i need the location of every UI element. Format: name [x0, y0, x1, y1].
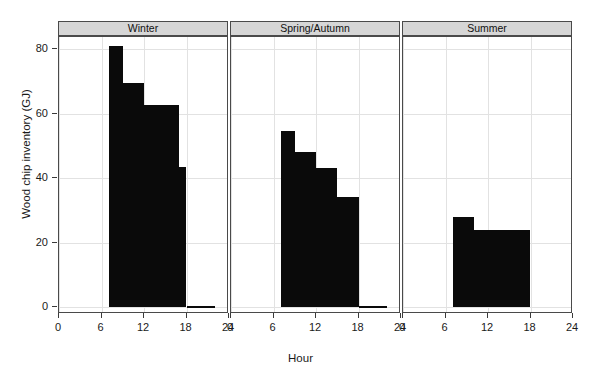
gridline-vertical [59, 37, 60, 312]
panel-spring-autumn: Spring/Autumn [230, 21, 400, 313]
x-tick-mark [445, 313, 446, 318]
y-tick-label: 60 [14, 108, 48, 119]
gridline-horizontal [403, 178, 571, 179]
gridline-vertical [102, 37, 103, 312]
x-axis-title: Hour [0, 352, 601, 364]
x-tick-mark [230, 313, 231, 318]
gridline-vertical [187, 37, 188, 312]
gridline-horizontal [231, 114, 399, 115]
gridline-vertical [359, 37, 360, 312]
gridline-vertical [446, 37, 447, 312]
y-tick-mark [52, 113, 57, 114]
panel-summer: Summer [402, 21, 572, 313]
lattice-chart: Wood chip inventory (GJ) Hour 020406080 … [0, 0, 601, 375]
x-tick-label: 12 [131, 322, 155, 333]
x-tick-mark [101, 313, 102, 318]
gridline-vertical [274, 37, 275, 312]
x-tick-mark [58, 313, 59, 318]
x-tick-label: 6 [433, 322, 457, 333]
panel-strip-label-summer: Summer [402, 21, 572, 36]
x-tick-label: 0 [218, 322, 242, 333]
y-tick-mark [52, 242, 57, 243]
gridline-horizontal [403, 307, 571, 308]
bar [337, 197, 358, 307]
y-tick-label: 40 [14, 172, 48, 183]
x-tick-mark [143, 313, 144, 318]
x-tick-mark [228, 313, 229, 318]
x-tick-mark [315, 313, 316, 318]
plot-area-winter [58, 36, 228, 313]
gridline-vertical [531, 37, 532, 312]
x-tick-label: 24 [560, 322, 584, 333]
x-tick-mark [273, 313, 274, 318]
gridline-horizontal [403, 49, 571, 50]
x-tick-label: 0 [46, 322, 70, 333]
bar [453, 217, 474, 307]
gridline-horizontal [403, 114, 571, 115]
panel-winter: Winter [58, 21, 228, 313]
plot-area-summer [402, 36, 572, 313]
y-tick-label: 0 [14, 301, 48, 312]
gridline-horizontal [59, 49, 227, 50]
panel-strip-label-winter: Winter [58, 21, 228, 36]
plot-area-spring-autumn [230, 36, 400, 313]
bar [316, 168, 337, 307]
gridline-vertical [403, 37, 404, 312]
bar [179, 167, 186, 307]
panel-strip-label-spring-autumn: Spring/Autumn [230, 21, 400, 36]
x-tick-mark [572, 313, 573, 318]
x-tick-mark [530, 313, 531, 318]
y-tick-label: 20 [14, 237, 48, 248]
y-tick-mark [52, 177, 57, 178]
x-tick-label: 6 [89, 322, 113, 333]
x-tick-mark [487, 313, 488, 318]
x-tick-label: 6 [261, 322, 285, 333]
bar [109, 46, 123, 307]
y-tick-mark [52, 306, 57, 307]
x-tick-label: 18 [346, 322, 370, 333]
x-tick-label: 18 [518, 322, 542, 333]
bar [123, 83, 144, 307]
bar [474, 230, 531, 307]
x-tick-mark [186, 313, 187, 318]
x-tick-mark [358, 313, 359, 318]
gridline-horizontal [231, 49, 399, 50]
y-tick-label: 80 [14, 43, 48, 54]
x-tick-label: 12 [475, 322, 499, 333]
bar [144, 105, 179, 307]
gridline-vertical [231, 37, 232, 312]
x-tick-label: 18 [174, 322, 198, 333]
bar [359, 306, 387, 308]
x-tick-label: 12 [303, 322, 327, 333]
bar [187, 306, 215, 308]
x-tick-mark [402, 313, 403, 318]
x-tick-mark [400, 313, 401, 318]
bar [281, 131, 295, 307]
y-tick-mark [52, 48, 57, 49]
bar [295, 152, 316, 307]
x-tick-label: 0 [390, 322, 414, 333]
